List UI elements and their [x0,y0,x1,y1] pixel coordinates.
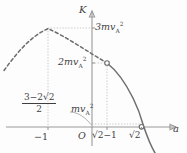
y-axis-label: K [79,5,86,15]
callout-unit-subscript: A [85,110,89,116]
callout-numerator: 3−2√2 [22,93,56,104]
x-tick-label-neg1: −1 [34,132,48,142]
y-level-3mv-text: 3mv [95,21,115,32]
y-level-2mv-text: 2mv [58,56,78,67]
curve-markers [105,61,144,129]
callout-denominator: 2 [22,104,56,114]
x-axis-label: a [173,124,179,134]
callout-unit-text: mv [71,103,85,114]
x-tick-label-sqrt2: √2 [129,131,140,140]
y-level-3mv-superscript: 2 [120,21,124,27]
origin-label: O [78,131,86,141]
tick-marks [48,28,142,130]
callout-fraction: 3−2√2 2 [22,93,56,114]
y-level-2mv-superscript: 2 [83,56,87,62]
kinetic-energy-graph-figure: K a 3mvA2 2mvA2 −1 O √2−1 √2 3−2√2 2 mvA… [0,0,187,153]
y-level-3mv-label: 3mvA2 [95,22,123,35]
guide-lines [48,28,140,127]
x-tick-label-sqrt2-minus1: √2−1 [92,131,117,140]
marker-sqrt2-minus1 [105,61,110,66]
y-level-2mv-label: 2mvA2 [58,57,86,70]
axes [6,11,176,146]
callout-unit-superscript: 2 [90,103,94,109]
y-level-3mv-subscript: A [115,28,119,34]
y-level-2mv-subscript: A [78,63,82,69]
callout-unit-label: mvA2 [71,104,93,117]
